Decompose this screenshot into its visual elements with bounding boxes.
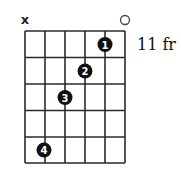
finger-dot-1: 1: [98, 37, 113, 52]
fretboard-grid: [25, 31, 125, 163]
finger-number: 3: [62, 93, 69, 104]
finger-dot-4: 4: [37, 143, 52, 158]
muted-string-marker: x: [21, 12, 30, 27]
finger-number: 1: [102, 40, 109, 51]
finger-dot-2: 2: [78, 64, 93, 79]
chord-diagram: x 11 fr 1 2 3 4: [0, 0, 181, 170]
finger-number: 4: [41, 145, 48, 156]
open-string-marker: [121, 16, 130, 25]
fret-position-label: 11 fr: [137, 35, 176, 54]
finger-dot-3: 3: [58, 90, 73, 105]
finger-number: 2: [82, 66, 89, 77]
